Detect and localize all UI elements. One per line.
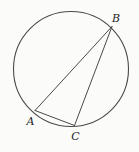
vertex-label-c: C bbox=[71, 130, 80, 143]
geometry-figure: A B C bbox=[0, 0, 139, 152]
vertex-label-a: A bbox=[26, 115, 35, 128]
figure-container: A B C bbox=[0, 0, 139, 152]
vertex-label-b: B bbox=[111, 12, 120, 25]
